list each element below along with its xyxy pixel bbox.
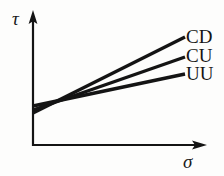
tau-axis: [29, 10, 38, 146]
sigma-axis-label: σ: [183, 152, 192, 171]
sigma-axis: [32, 140, 207, 149]
series-lines: [33, 37, 185, 113]
figure-canvas: τ σ CD CU UU: [0, 0, 224, 176]
series-label-cd: CD: [186, 27, 212, 46]
series-label-uu: UU: [186, 64, 213, 83]
tau-axis-label: τ: [12, 9, 19, 28]
series-line-uu: [33, 74, 185, 106]
